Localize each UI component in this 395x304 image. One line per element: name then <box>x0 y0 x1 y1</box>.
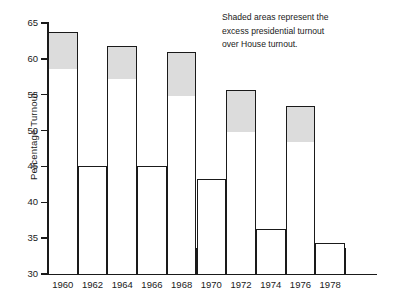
y-tick-label-65: 65 <box>0 17 38 28</box>
chart-annotation: Shaded areas represent theexcess preside… <box>222 11 387 52</box>
bar-1964 <box>107 46 137 274</box>
bar-1974 <box>256 229 286 274</box>
bar-shade-1968 <box>168 53 196 96</box>
y-tick-label-55: 55 <box>0 89 38 100</box>
y-tick-label-45: 45 <box>0 160 38 171</box>
bar-1960 <box>48 32 78 274</box>
bar-1966 <box>137 166 167 274</box>
y-axis-label: Percentage Turnout <box>28 57 39 217</box>
y-tick-65 <box>41 22 48 23</box>
y-tick-label-35: 35 <box>0 232 38 243</box>
annotation-line-3: over House turnout. <box>222 38 387 52</box>
bar-shade-1976 <box>287 107 315 142</box>
y-tick-label-30: 30 <box>0 268 38 279</box>
bar-shade-1960 <box>49 33 77 69</box>
bar-1970 <box>197 179 227 274</box>
x-tick-label-1978: 1978 <box>310 279 350 290</box>
bar-shade-1972 <box>227 91 255 132</box>
annotation-line-2: excess presidential turnout <box>222 25 387 39</box>
y-tick-label-50: 50 <box>0 125 38 136</box>
y-tick-45 <box>41 166 48 167</box>
y-tick-label-40: 40 <box>0 196 38 207</box>
annotation-line-1: Shaded areas represent the <box>222 11 387 25</box>
y-tick-55 <box>41 94 48 95</box>
bar-1972 <box>226 90 256 274</box>
bar-1978 <box>315 243 345 274</box>
y-tick-60 <box>41 58 48 59</box>
chart-figure: Percentage Turnout 3035404550556065 1960… <box>0 0 395 304</box>
y-tick-35 <box>41 237 48 238</box>
y-tick-30 <box>41 273 48 274</box>
y-tick-40 <box>41 202 48 203</box>
bar-1976 <box>286 106 316 274</box>
y-tick-50 <box>41 130 48 131</box>
y-tick-label-60: 60 <box>0 53 38 64</box>
bar-1962 <box>78 166 108 274</box>
bar-shade-1964 <box>108 47 136 79</box>
bar-1968 <box>167 52 197 274</box>
